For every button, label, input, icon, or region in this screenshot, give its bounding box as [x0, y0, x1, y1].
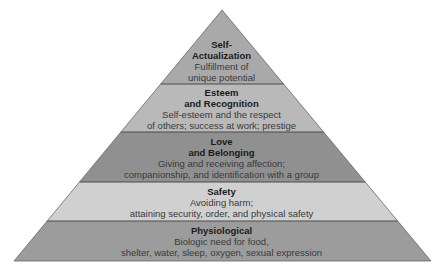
tier-description: shelter, water, sleep, oxygen, sexual ex…: [0, 247, 443, 258]
tier-description: Avoiding harm;: [0, 197, 443, 208]
tier-love-belonging: Love and Belonging Giving and receiving …: [0, 136, 443, 180]
tier-description: Giving and receiving affection;: [0, 158, 443, 169]
tier-title: Self-: [0, 39, 443, 50]
tier-description: Biologic need for food,: [0, 236, 443, 247]
tier-title: Esteem: [0, 87, 443, 98]
tier-description: companionship, and identification with a…: [0, 169, 443, 180]
tier-title: Safety: [0, 186, 443, 197]
tier-title: Physiological: [0, 225, 443, 236]
tier-self-actualization: Self- Actualization Fulfillment of uniqu…: [0, 39, 443, 83]
tier-physiological: Physiological Biologic need for food, sh…: [0, 225, 443, 258]
tier-title: and Belonging: [0, 147, 443, 158]
tier-title: Actualization: [0, 50, 443, 61]
tier-description: of others; success at work; prestige: [0, 120, 443, 131]
tier-description: Self-esteem and the respect: [0, 109, 443, 120]
tier-title: Love: [0, 136, 443, 147]
tier-esteem: Esteem and Recognition Self-esteem and t…: [0, 87, 443, 131]
tier-safety: Safety Avoiding harm; attaining security…: [0, 186, 443, 219]
tier-description: unique potential: [0, 72, 443, 83]
tier-description: Fulfillment of: [0, 61, 443, 72]
tier-title: and Recognition: [0, 98, 443, 109]
tier-description: attaining security, order, and physical …: [0, 208, 443, 219]
